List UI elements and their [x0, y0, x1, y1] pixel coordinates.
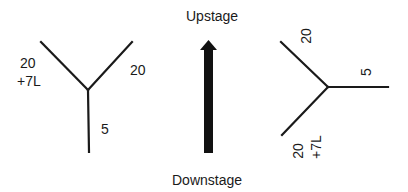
- left-y-upper-right-value: 20: [130, 62, 146, 78]
- right-y-upper-left-value: 20: [299, 28, 313, 44]
- left-y-upper-left-value: 20: [20, 55, 36, 71]
- right-y-arm-lower-left: [282, 87, 328, 135]
- right-y-shape: [281, 42, 388, 135]
- up-arrow-icon: [200, 40, 217, 153]
- left-y-arm-upper-left: [41, 42, 88, 90]
- diagram-canvas: [0, 0, 408, 192]
- right-y-right-value: 5: [359, 68, 373, 76]
- left-y-arm-upper-right: [88, 42, 132, 90]
- upstage-label: Upstage: [186, 8, 238, 24]
- left-y-shape: [41, 42, 132, 152]
- right-y-arm-upper-left: [281, 42, 328, 87]
- right-y-lower-left-modifier: +7L: [309, 135, 323, 159]
- left-y-upper-left-modifier: +7L: [17, 73, 41, 89]
- right-y-lower-left-value: 20: [291, 143, 305, 159]
- left-y-bottom-value: 5: [101, 121, 109, 137]
- downstage-label: Downstage: [172, 172, 242, 188]
- left-y-arm-bottom: [88, 90, 89, 152]
